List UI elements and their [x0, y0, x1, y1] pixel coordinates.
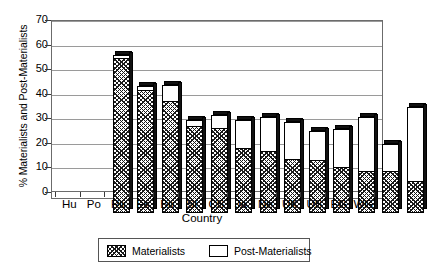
bar-group[interactable]: [186, 41, 203, 213]
bar-stack-eg[interactable]: [382, 144, 399, 213]
y-tick-label: 20: [20, 137, 48, 148]
x-tick-mark: [276, 192, 277, 197]
y-tick-mark: [45, 118, 51, 119]
x-tick-mark: [300, 192, 301, 197]
y-tick-label: 50: [20, 63, 48, 74]
bar-group[interactable]: [211, 41, 228, 213]
y-tick-mark: [45, 143, 51, 144]
y-tick-label: 10: [20, 161, 48, 172]
bar-segment-post-materialists[interactable]: [236, 121, 251, 150]
y-tick-label: 60: [20, 39, 48, 50]
y-tick-mark: [45, 192, 51, 193]
bar-group[interactable]: [137, 41, 154, 213]
x-tick-mark: [349, 192, 350, 197]
bar-segment-post-materialists[interactable]: [334, 130, 349, 168]
x-tick-mark: [325, 192, 326, 197]
post-materialists-swatch-icon: [209, 245, 228, 257]
x-tick-mark: [202, 192, 203, 197]
bar-segment-post-materialists[interactable]: [310, 132, 325, 163]
x-tick-mark: [227, 192, 228, 197]
bar-segment-post-materialists[interactable]: [383, 145, 398, 173]
bar-segment-post-materialists[interactable]: [359, 118, 374, 173]
bar-group[interactable]: [407, 41, 424, 213]
bar-segment-post-materialists[interactable]: [408, 108, 423, 183]
gridline: [52, 21, 382, 22]
bar-group[interactable]: [382, 41, 399, 213]
y-tick-mark: [45, 94, 51, 95]
bar-group[interactable]: [113, 41, 130, 213]
x-tick-mark: [55, 192, 56, 197]
y-tick-mark: [45, 20, 51, 21]
y-tick-mark: [45, 167, 51, 168]
bar-segment-materialists[interactable]: [114, 58, 129, 212]
legend-entry-materialists: Materialists: [107, 243, 185, 258]
legend-label-materialists: Materialists: [132, 245, 185, 257]
bar-group[interactable]: [235, 41, 252, 213]
chart-legend: Materialists Post-Materialists: [98, 238, 310, 262]
x-tick-mark: [104, 192, 105, 197]
x-tick-mark: [374, 192, 375, 197]
x-tick-mark: [251, 192, 252, 197]
bar-segment-post-materialists[interactable]: [261, 118, 276, 152]
bar-stack-po[interactable]: [137, 86, 154, 213]
bar-segment-materialists[interactable]: [163, 101, 178, 212]
y-tick-label: 70: [20, 14, 48, 25]
x-tick-mark: [129, 192, 130, 197]
y-tick-label: 30: [20, 112, 48, 123]
bar-stack-hu[interactable]: [113, 55, 130, 213]
y-tick-label: 0: [20, 186, 48, 197]
bar-segment-post-materialists[interactable]: [285, 123, 300, 161]
bar-group[interactable]: [284, 41, 301, 213]
y-tick-mark: [45, 45, 51, 46]
y-tick-mark: [45, 69, 51, 70]
bar-group[interactable]: [162, 41, 179, 213]
bar-group[interactable]: [309, 41, 326, 213]
x-tick-mark: [153, 192, 154, 197]
x-axis-title: Country: [0, 212, 404, 224]
x-tick-mark: [80, 192, 81, 197]
x-tick-mark: [178, 192, 179, 197]
y-tick-label: 40: [20, 88, 48, 99]
bar-segment-materialists[interactable]: [383, 171, 398, 212]
bar-segment-materialists[interactable]: [138, 90, 153, 212]
bar-group[interactable]: [260, 41, 277, 213]
bars-container: [103, 41, 431, 213]
materialists-swatch-icon: [107, 245, 126, 257]
legend-entry-post-materialists: Post-Materialists: [209, 243, 312, 258]
y-axis-title: % Materialists and Post-Materialists: [17, 6, 29, 206]
bar-group[interactable]: [333, 41, 350, 213]
bar-segment-materialists[interactable]: [408, 181, 423, 212]
plot-area: [51, 20, 383, 192]
legend-label-post-materialists: Post-Materialists: [234, 245, 312, 257]
x-tick-label-wg: WG: [343, 198, 383, 211]
bar-group[interactable]: [358, 41, 375, 213]
bar-stack-ru[interactable]: [162, 85, 179, 213]
bar-stack-wg[interactable]: [407, 107, 424, 213]
